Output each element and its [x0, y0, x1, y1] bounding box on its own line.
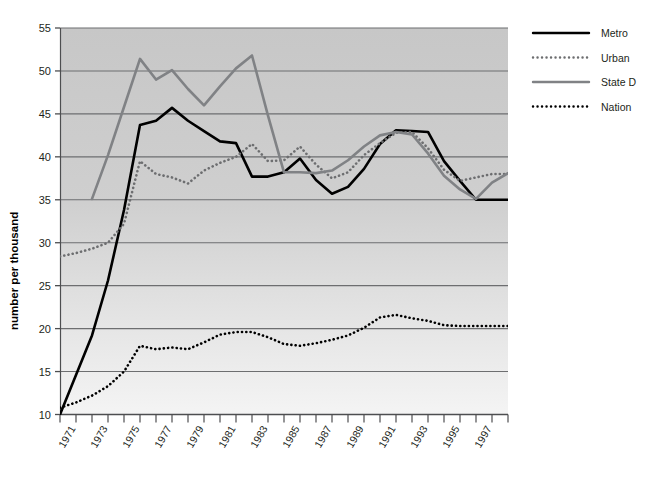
- x-tick-label: 1991: [376, 423, 398, 449]
- x-tick-label: 1975: [120, 423, 142, 449]
- x-axis-tick-labels: 1971197319751977197919811983198519871989…: [56, 423, 494, 449]
- legend-label-state-d: State D: [601, 76, 636, 88]
- y-tick-label: 50: [39, 65, 51, 77]
- y-axis-title: number per thousand: [8, 212, 20, 330]
- chart-figure: 10152025303540455055 1971197319751977197…: [0, 0, 661, 478]
- y-axis-ticks: [55, 28, 60, 415]
- x-tick-label: 1997: [472, 423, 494, 449]
- legend-label-metro: Metro: [601, 27, 628, 39]
- y-tick-label: 15: [39, 366, 51, 378]
- plot-background: [60, 28, 508, 415]
- x-tick-label: 1989: [344, 423, 366, 449]
- y-tick-label: 30: [39, 237, 51, 249]
- x-tick-label: 1973: [88, 423, 110, 449]
- x-tick-label: 1995: [440, 423, 462, 449]
- line-chart: 10152025303540455055 1971197319751977197…: [0, 0, 661, 478]
- x-axis-ticks: [60, 415, 508, 423]
- legend-label-urban: Urban: [601, 52, 630, 64]
- x-tick-label: 1987: [312, 423, 334, 449]
- x-tick-label: 1993: [408, 423, 430, 449]
- y-tick-label: 40: [39, 151, 51, 163]
- y-tick-label: 55: [39, 22, 51, 34]
- y-tick-label: 20: [39, 323, 51, 335]
- x-tick-label: 1971: [56, 423, 78, 449]
- y-tick-label: 35: [39, 194, 51, 206]
- y-tick-label: 45: [39, 108, 51, 120]
- legend-label-nation: Nation: [601, 101, 632, 113]
- x-tick-label: 1979: [184, 423, 206, 449]
- x-tick-label: 1981: [216, 423, 238, 449]
- x-tick-label: 1977: [152, 423, 174, 449]
- x-tick-label: 1985: [280, 423, 302, 449]
- y-axis-tick-labels: 10152025303540455055: [39, 22, 51, 421]
- x-tick-label: 1983: [248, 423, 270, 449]
- y-tick-label: 10: [39, 409, 51, 421]
- chart-legend: MetroUrbanState DNation: [533, 27, 636, 113]
- y-tick-label: 25: [39, 280, 51, 292]
